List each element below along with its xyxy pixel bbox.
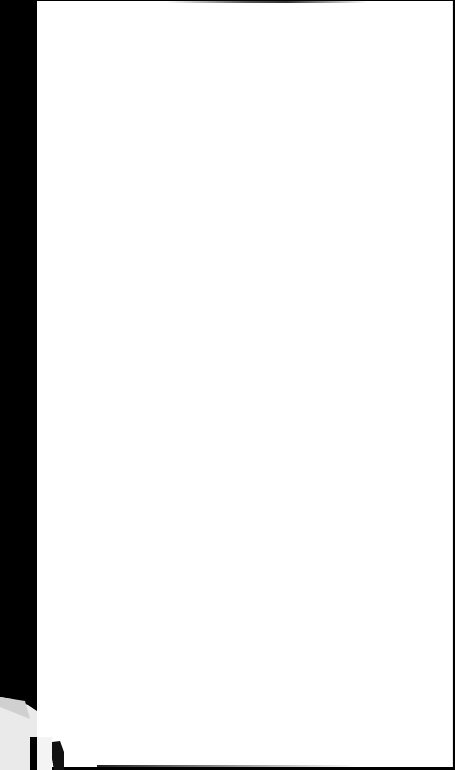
page-top-edge-shadow (167, 1, 367, 3)
page-bottom-edge-shadow (97, 765, 357, 767)
blank-page (37, 1, 453, 767)
scan-corner-artifact (0, 697, 64, 770)
